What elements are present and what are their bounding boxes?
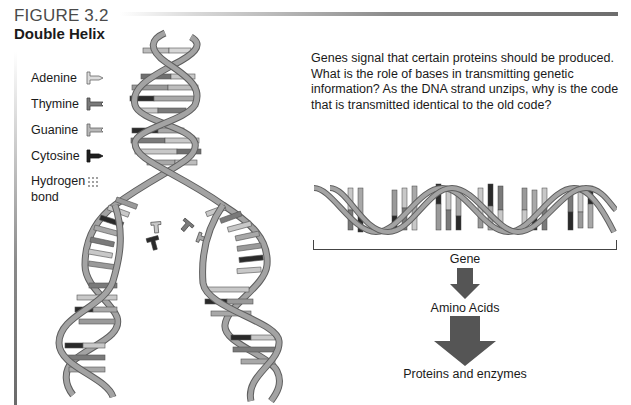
proteins-enzymes-label: Proteins and enzymes xyxy=(400,367,530,381)
free-nucleotides xyxy=(146,218,209,251)
unzipping-double-helix-illustration xyxy=(55,25,305,405)
header-rule xyxy=(120,12,618,16)
gene-bracket xyxy=(313,240,617,250)
down-arrow-icon xyxy=(449,268,481,300)
figure-number: FIGURE 3.2 xyxy=(14,6,109,26)
question-text: Genes signal that certain proteins shoul… xyxy=(311,51,626,113)
gene-label: Gene xyxy=(440,252,490,266)
large-down-arrow-icon xyxy=(434,316,496,366)
amino-acids-label: Amino Acids xyxy=(420,301,510,315)
gene-double-helix-illustration xyxy=(312,180,617,240)
side-rule xyxy=(14,52,17,405)
